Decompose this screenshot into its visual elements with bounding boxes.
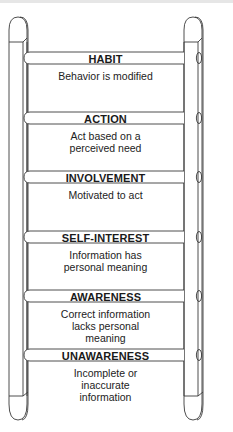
- stage-description: Behavior is modified: [28, 70, 183, 82]
- stage-label: ACTION: [28, 113, 183, 125]
- description-line: Motivated to act: [28, 189, 183, 201]
- description-line: meaning: [28, 332, 183, 344]
- stage-description: Information haspersonal meaning: [28, 249, 183, 273]
- stage-description: Act based on aperceived need: [28, 130, 183, 154]
- stage-label: UNAWARENESS: [28, 350, 183, 362]
- description-line: Correct information: [28, 308, 183, 320]
- stage-label: SELF-INTEREST: [28, 232, 183, 244]
- description-line: perceived need: [28, 142, 183, 154]
- stage-description: Correct informationlacks personalmeaning: [28, 308, 183, 344]
- stage-description: Motivated to act: [28, 189, 183, 201]
- description-line: personal meaning: [28, 261, 183, 273]
- description-line: Information has: [28, 249, 183, 261]
- description-line: inaccurate: [28, 379, 183, 391]
- stage-description: Incomplete orinaccurateinformation: [28, 367, 183, 403]
- description-line: Behavior is modified: [28, 70, 183, 82]
- description-line: lacks personal: [28, 320, 183, 332]
- description-line: Act based on a: [28, 130, 183, 142]
- description-line: information: [28, 391, 183, 403]
- stage-label: INVOLVEMENT: [28, 172, 183, 184]
- stage-label: AWARENESS: [28, 291, 183, 303]
- stage-label: HABIT: [28, 53, 183, 65]
- description-line: Incomplete or: [28, 367, 183, 379]
